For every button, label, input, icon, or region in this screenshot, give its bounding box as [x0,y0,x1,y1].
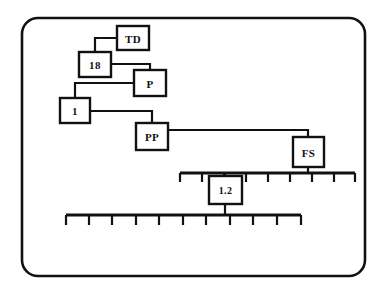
node-td[interactable]: TD [117,26,149,50]
connector-td-to-18 [95,38,117,52]
node-pp[interactable]: PP [136,123,168,150]
node-p[interactable]: P [134,70,166,96]
node-p-label: P [146,78,153,90]
node-boxes: TD18P1PPFS1.2 [60,26,324,204]
connector-1-to-pp [90,111,152,123]
node-n1[interactable]: 1 [60,98,90,123]
node-fs-label: FS [302,147,316,159]
lower-scale-bar [66,215,301,225]
node-n12-label: 1.2 [219,185,233,196]
node-td-label: TD [125,33,141,45]
node-pp-label: PP [145,131,159,143]
node-n1-label: 1 [72,105,78,117]
node-n18-label: 18 [89,59,101,71]
node-n18[interactable]: 18 [79,52,111,77]
diagram-canvas: TD18P1PPFS1.2 [0,0,385,293]
upper-scale-bar [180,173,355,182]
node-n12[interactable]: 1.2 [209,176,242,204]
node-fs[interactable]: FS [293,137,324,167]
connector-pp-to-fs [168,130,308,137]
connector-p-to-1 [75,83,134,98]
node-diagram: TD18P1PPFS1.2 [0,0,385,293]
